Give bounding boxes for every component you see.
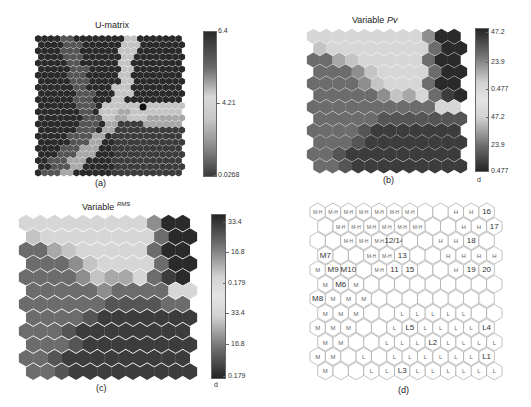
hex-cell <box>76 53 83 61</box>
hex-cell <box>183 336 198 353</box>
hex-cell <box>134 151 141 159</box>
hex-cell <box>131 96 138 104</box>
hex-cell <box>124 96 131 104</box>
hex-cell <box>33 350 48 367</box>
hex-label: M-H <box>367 224 377 230</box>
hex-cell <box>183 363 198 380</box>
hex-cell <box>428 88 441 103</box>
hex-cell <box>172 53 179 61</box>
hex-cell <box>67 145 74 153</box>
hex-cell <box>83 139 90 147</box>
hex-cell <box>51 114 58 122</box>
hex-cell <box>19 269 34 286</box>
hex-cell <box>112 59 119 67</box>
hex-cell <box>54 169 61 177</box>
hex-cell <box>163 145 170 153</box>
hex-cell <box>96 53 103 61</box>
hex-label: M <box>331 325 336 331</box>
hex-cell <box>166 41 173 49</box>
hex-cell <box>179 151 186 159</box>
hex-cell <box>92 108 99 116</box>
hex-cell <box>371 290 386 308</box>
hex-cell <box>73 47 80 55</box>
hex-cell <box>105 47 112 55</box>
hex-cell <box>47 269 62 286</box>
hex-cell <box>320 76 333 91</box>
hex-label: M-H <box>405 209 415 215</box>
hex-cell <box>137 47 144 55</box>
hex-cell <box>161 323 176 340</box>
hex-cell <box>115 53 122 61</box>
hex-cell <box>45 151 52 159</box>
hex-cell <box>147 350 162 367</box>
hex-cell <box>73 71 80 79</box>
hex-cell <box>76 126 83 134</box>
hex-cell <box>163 108 170 116</box>
hex-cell <box>76 41 83 49</box>
hex-cell <box>92 84 99 92</box>
hex-cell <box>104 296 119 313</box>
labeled-hexmap: M-HM-HM-HM-HM-HM-HM-HHH16M-HM-HM-HM-HM-H… <box>310 203 505 383</box>
hex-cell <box>41 169 48 177</box>
pv-title: Variable Pv <box>352 15 397 25</box>
hex-cell <box>96 78 103 86</box>
hex-cell <box>313 158 326 173</box>
hex-cell <box>104 269 119 286</box>
hex-cell <box>384 147 397 162</box>
hex-cell <box>64 65 71 73</box>
hex-cell <box>118 35 125 43</box>
hex-cell <box>73 169 80 177</box>
hex-cell <box>402 232 417 250</box>
hex-cell <box>416 64 429 79</box>
hex-cell <box>433 290 448 308</box>
hex-cell <box>156 47 163 55</box>
hex-cell <box>76 242 91 259</box>
hex-cell <box>90 242 105 259</box>
hex-cell <box>112 47 119 55</box>
hex-cell <box>143 157 150 165</box>
hex-cell <box>48 96 55 104</box>
hex-cell <box>364 135 377 150</box>
hex-cell <box>62 350 77 367</box>
hex-label: M-H <box>374 238 384 244</box>
hex-cell <box>166 53 173 61</box>
hex-cell <box>454 158 467 173</box>
hex-cell <box>33 242 48 259</box>
hex-cell <box>409 147 422 162</box>
hex-cell <box>96 41 103 49</box>
hex-cell <box>51 53 58 61</box>
hex-cell <box>163 96 170 104</box>
hex-label: M <box>315 325 320 331</box>
hex-cell <box>172 90 179 98</box>
hex-cell <box>76 296 91 313</box>
hex-cell <box>67 96 74 104</box>
hex-cell <box>105 84 112 92</box>
hex-cell <box>153 78 160 86</box>
hex-cell <box>57 53 64 61</box>
hex-cell <box>121 41 128 49</box>
hex-cell <box>371 147 384 162</box>
hex-cell <box>92 120 99 128</box>
hex-cell <box>364 275 379 293</box>
hex-cell <box>153 163 160 171</box>
hex-cell <box>326 111 339 126</box>
hex-cell <box>326 135 339 150</box>
hex-cell <box>150 59 157 67</box>
hex-label: H <box>446 253 450 259</box>
hex-cell <box>115 126 122 134</box>
hex-label: 20 <box>482 265 491 274</box>
hex-cell <box>339 64 352 79</box>
hex-cell <box>348 246 363 264</box>
hex-cell <box>161 269 176 286</box>
hex-cell <box>168 336 183 353</box>
hex-cell <box>183 282 198 299</box>
rms-tick-0: 33.4 <box>228 218 242 225</box>
hex-cell <box>105 120 112 128</box>
hex-cell <box>105 96 112 104</box>
hex-cell <box>154 282 169 299</box>
hex-cell <box>166 126 173 134</box>
hex-cell <box>35 84 42 92</box>
hex-cell <box>41 84 48 92</box>
hex-label: M <box>338 340 343 346</box>
hex-cell <box>112 145 119 153</box>
